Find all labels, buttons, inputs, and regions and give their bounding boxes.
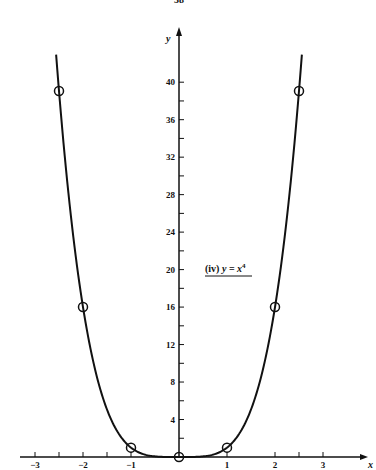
y-tick-label: 36 (166, 115, 176, 125)
y-tick-label: 16 (166, 302, 176, 312)
y-tick-label: 24 (166, 227, 176, 237)
axes (20, 27, 368, 460)
x-tick-label: −2 (78, 460, 88, 470)
x-tick-label: 3 (321, 460, 326, 470)
x-axis-arrow-icon (360, 454, 368, 460)
y-tick-label: 40 (166, 77, 176, 87)
x-tick-label: 2 (273, 460, 278, 470)
page-number: 38 (174, 0, 184, 5)
tick-labels: −3−2−1123481216202428323640 (30, 77, 326, 470)
chart: 38 −3−2−1123481216202428323640 x y (iv) … (0, 0, 376, 470)
y-tick-label: 8 (171, 377, 176, 387)
y-tick-label: 28 (166, 190, 176, 200)
function-annotation: (iv) y = x4 (205, 262, 252, 276)
y-tick-label: 12 (166, 340, 176, 350)
x-tick-label: 1 (225, 460, 230, 470)
y-tick-label: 32 (166, 152, 176, 162)
svg-text:(iv) y = x4: (iv) y = x4 (205, 262, 246, 275)
x-tick-label: −3 (30, 460, 40, 470)
x-tick-label: −1 (126, 460, 136, 470)
y-axis-arrow-icon (176, 27, 182, 36)
x-axis-label: x (367, 459, 373, 470)
y-axis-label: y (165, 33, 171, 44)
y-tick-label: 20 (166, 265, 176, 275)
y-tick-label: 4 (171, 415, 176, 425)
